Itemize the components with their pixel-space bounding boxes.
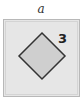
diamond-diagram [0,0,82,101]
shape-number-label: 3 [58,31,67,46]
